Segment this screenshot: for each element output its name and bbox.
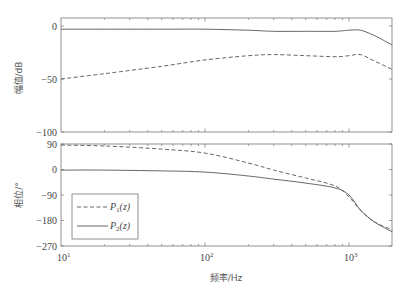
y-tick-label: −90 — [41, 190, 57, 201]
xtick-10-1: 101 — [57, 251, 71, 263]
magnitude-line-p2z — [61, 29, 392, 45]
legend: P1(z) P2(z) — [72, 194, 138, 239]
x-tick-labels: 101 102 103 — [57, 251, 358, 263]
phase-ytick-labels: 900−90−180−270 — [36, 139, 57, 252]
magnitude-line-p1z — [61, 54, 392, 79]
bode-plot: 0−50−100 幅值/dB 900−90−180−270 相位/° 101 1… — [0, 0, 407, 293]
y-tick-label: 0 — [52, 164, 57, 175]
y-tick-label: −270 — [36, 241, 57, 252]
phase-panel: 900−90−180−270 相位/° 101 102 103 频率/Hz P1… — [13, 139, 392, 284]
x-axis-label: 频率/Hz — [210, 272, 243, 283]
y-tick-label: −100 — [36, 127, 57, 138]
magnitude-ytick-labels: 0−50−100 — [36, 21, 57, 138]
magnitude-lines — [61, 29, 392, 79]
magnitude-ylabel: 幅值/dB — [13, 62, 24, 95]
y-tick-label: 0 — [52, 21, 57, 32]
phase-ylabel: 相位/° — [13, 182, 24, 208]
y-tick-label: 90 — [47, 139, 57, 150]
xtick-10-2: 102 — [200, 251, 214, 263]
magnitude-ticks — [61, 18, 392, 132]
y-tick-label: −180 — [36, 215, 57, 226]
y-tick-label: −50 — [41, 74, 57, 85]
xtick-10-3: 103 — [344, 251, 358, 263]
magnitude-panel: 0−50−100 幅值/dB — [13, 18, 392, 138]
magnitude-frame — [61, 18, 392, 132]
